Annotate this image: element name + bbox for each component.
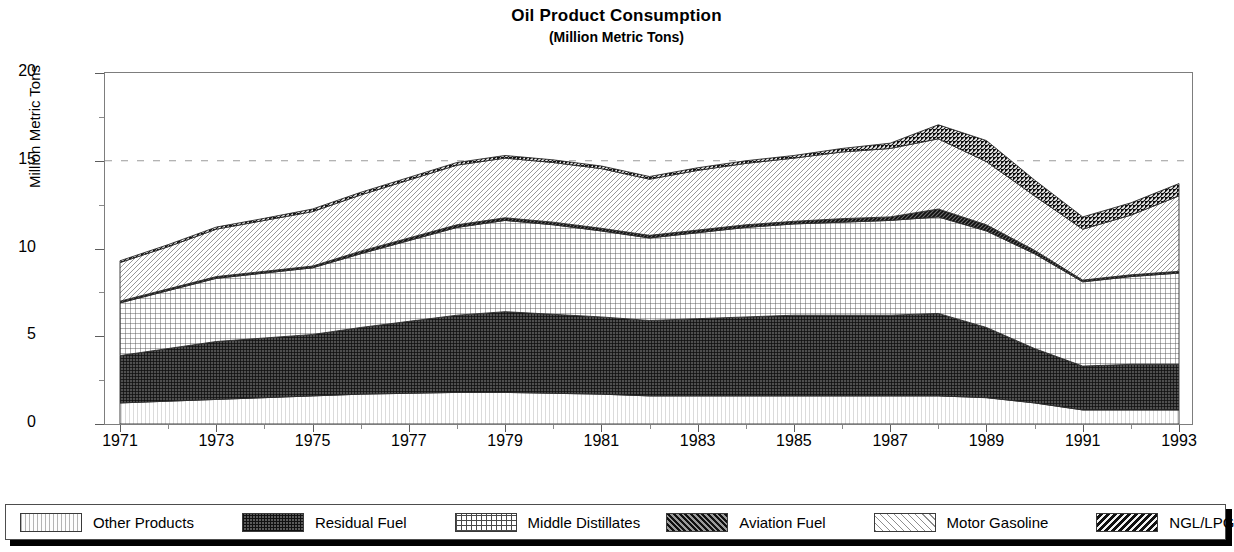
- legend-item-label: Residual Fuel: [315, 514, 407, 531]
- x-axis-tick: [794, 425, 795, 432]
- y-axis-tick-label: 20: [0, 62, 36, 80]
- x-axis-tick-label: 1991: [1053, 432, 1113, 450]
- x-axis-tick-label: 1977: [379, 432, 439, 450]
- middle-distillates-swatch: [455, 513, 517, 532]
- legend-item-label: Other Products: [93, 514, 194, 531]
- x-axis-minor-tick: [938, 425, 939, 429]
- x-axis-minor-tick: [457, 425, 458, 429]
- legend-item[interactable]: Aviation Fuel: [666, 505, 825, 539]
- x-axis-tick-label: 1981: [571, 432, 631, 450]
- y-axis-title: Million Metric Tons: [26, 27, 43, 227]
- x-axis-minor-tick: [1131, 425, 1132, 429]
- x-axis-minor-tick: [746, 425, 747, 429]
- legend-item-label: Middle Distillates: [528, 514, 641, 531]
- y-axis-tick: [95, 424, 104, 425]
- legend-item-label: NGL/LPG: [1169, 514, 1234, 531]
- x-axis-tick-label: 1971: [90, 432, 150, 450]
- plot-area: [104, 72, 1193, 425]
- x-axis-minor-tick: [553, 425, 554, 429]
- y-axis-tick: [95, 249, 104, 250]
- y-axis-tick-label: 5: [0, 325, 36, 343]
- x-axis-tick-label: 1975: [283, 432, 343, 450]
- motor-gasoline-swatch: [874, 513, 936, 532]
- y-axis-tick: [95, 73, 104, 74]
- x-axis-tick: [120, 425, 121, 432]
- legend-item-label: Aviation Fuel: [739, 514, 825, 531]
- x-axis-tick: [1179, 425, 1180, 432]
- aviation-fuel-swatch: [666, 513, 728, 532]
- legend-item[interactable]: NGL/LPG: [1096, 505, 1234, 539]
- residual-fuel-swatch: [242, 513, 304, 532]
- legend-item[interactable]: Middle Distillates: [455, 505, 641, 539]
- legend-item[interactable]: Motor Gasoline: [874, 505, 1049, 539]
- x-axis-tick-label: 1987: [860, 432, 920, 450]
- x-axis-tick: [216, 425, 217, 432]
- y-axis-tick: [95, 336, 104, 337]
- stacked-area-chart: [105, 73, 1192, 424]
- legend-item-label: Motor Gasoline: [947, 514, 1049, 531]
- x-axis-tick: [313, 425, 314, 432]
- plot-inner: [105, 73, 1192, 424]
- x-axis-tick-label: 1983: [668, 432, 728, 450]
- x-axis-tick: [1083, 425, 1084, 432]
- x-axis-tick: [505, 425, 506, 432]
- y-axis-tick-label: 10: [0, 238, 36, 256]
- x-axis-minor-tick: [264, 425, 265, 429]
- chart-subtitle: (Million Metric Tons): [0, 29, 1233, 45]
- chart-legend: Other Products Residual Fuel Middle Dist…: [5, 504, 1226, 540]
- x-axis-tick-label: 1989: [956, 432, 1016, 450]
- legend-item[interactable]: Other Products: [20, 505, 194, 539]
- page-title: Oil Product Consumption: [0, 6, 1233, 26]
- x-axis-minor-tick: [168, 425, 169, 429]
- x-axis-tick: [601, 425, 602, 432]
- other-products-swatch: [20, 513, 82, 532]
- x-axis-minor-tick: [650, 425, 651, 429]
- title-block: Oil Product Consumption (Million Metric …: [0, 6, 1233, 45]
- x-axis-tick-label: 1993: [1149, 432, 1209, 450]
- y-axis-tick-label: 0: [0, 413, 36, 431]
- x-axis-minor-tick: [1035, 425, 1036, 429]
- ngl-lpg-swatch: [1096, 513, 1158, 532]
- y-axis-tick-label: 15: [0, 150, 36, 168]
- legend-item[interactable]: Residual Fuel: [242, 505, 407, 539]
- x-axis-tick: [890, 425, 891, 432]
- y-axis-tick: [95, 161, 104, 162]
- x-axis-tick-label: 1973: [186, 432, 246, 450]
- x-axis-minor-tick: [842, 425, 843, 429]
- x-axis-tick: [698, 425, 699, 432]
- x-axis-tick-label: 1985: [764, 432, 824, 450]
- x-axis-minor-tick: [361, 425, 362, 429]
- x-axis-tick-label: 1979: [475, 432, 535, 450]
- x-axis-tick: [986, 425, 987, 432]
- x-axis-tick: [409, 425, 410, 432]
